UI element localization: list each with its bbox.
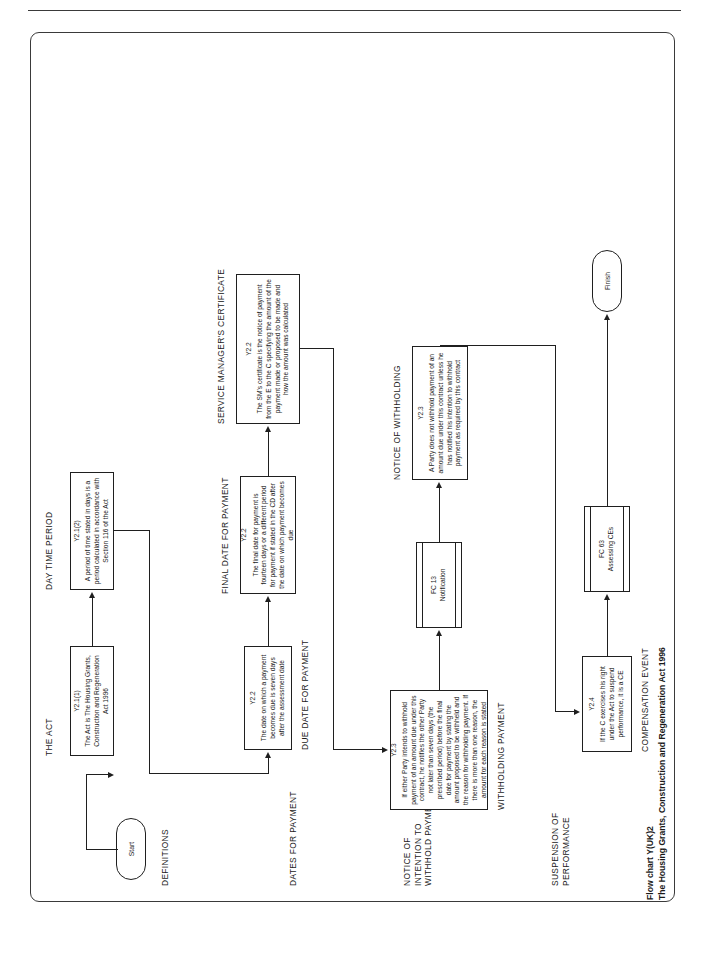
subprocess-fc13-ref: FC 13	[430, 576, 439, 594]
subprocess-fc13-notification[interactable]: FC 13 Notification	[416, 542, 462, 628]
connector-fc63-to-finish	[607, 318, 608, 506]
arrowhead-withholding-payment	[382, 747, 388, 753]
arrowhead-finish	[604, 314, 610, 320]
connector-withholding-to-fc13	[439, 634, 440, 690]
node-withholding-payment-ref: Y2.3	[390, 743, 398, 757]
subprocess-fc13-body: Notification	[439, 569, 448, 602]
connector-row2-drop	[149, 773, 269, 774]
arrowhead-fc63	[604, 594, 610, 600]
node-suspension-of-performance[interactable]: Y2.4 If the C exercises his right under …	[582, 656, 632, 752]
node-due-date-for-payment[interactable]: Y2.2 The date on which a payment becomes…	[244, 646, 292, 750]
connector-act-to-daytime	[92, 596, 93, 646]
node-final-date-ref: Y2.2	[240, 528, 248, 542]
caption-withholding-payment: WITHHOLDING PAYMENT	[496, 702, 506, 810]
arrowhead-suspension	[574, 709, 580, 715]
arrowhead-notice-of-withholding	[436, 482, 442, 488]
arrowhead-fc13	[436, 630, 442, 636]
node-sm-certificate-body: The SM's certificate is the notice of pa…	[256, 279, 291, 419]
node-act-body: The Act is The Housing Grants, Construct…	[84, 651, 110, 751]
caption-compensation-event: COMPENSATION EVENT	[640, 648, 650, 752]
connector-smcert-down	[300, 348, 334, 349]
connector-row3-feed	[333, 348, 334, 750]
connector-notice-down	[440, 345, 556, 346]
node-sm-certificate[interactable]: Y2.2 The SM's certificate is the notice …	[236, 274, 300, 424]
caption-definitions: DEFINITIONS	[160, 829, 170, 886]
arrowhead-into-act	[108, 772, 114, 778]
node-due-date-body: The date on which a payment becomes due …	[260, 651, 286, 745]
connector-due-to-final	[268, 600, 269, 646]
node-final-date-for-payment[interactable]: Y2.2 The final date for payment is fourt…	[240, 476, 296, 594]
connector-start-up	[86, 849, 118, 850]
node-notice-of-withholding[interactable]: Y2.3 A Party does not withhold payment o…	[412, 346, 468, 480]
connector-fc13-to-notice	[439, 486, 440, 542]
connector-row3-drop	[333, 749, 385, 750]
node-due-date-ref: Y2.2	[249, 691, 257, 705]
header-rule	[28, 10, 681, 11]
flowchart-canvas: Start DEFINITIONS Y2.1(1) The Act is The…	[30, 32, 675, 902]
node-act[interactable]: Y2.1(1) The Act is The Housing Grants, C…	[70, 646, 114, 756]
caption-suspension-of-performance: SUSPENSION OF PERFORMANCE	[550, 794, 571, 886]
node-suspension-body: If the C exercises his right under the A…	[599, 661, 625, 747]
connector-row2-feed	[149, 530, 150, 774]
node-day-time-period-ref: Y2.1(2)	[73, 520, 81, 542]
subprocess-fc63-assessing-ces[interactable]: FC 63 Assessing CEs	[584, 506, 630, 592]
caption-final-date-for-payment: FINAL DATE FOR PAYMENT	[220, 477, 230, 594]
node-day-time-period[interactable]: Y2.1(2) A period of time stated in days …	[70, 472, 114, 590]
node-suspension-ref: Y2.4	[588, 697, 596, 711]
node-withholding-payment[interactable]: Y2.3 If either Party intends to withhold…	[390, 690, 488, 810]
arrowhead-sm-certificate	[265, 426, 271, 432]
arrowhead-due-date	[265, 752, 271, 758]
subprocess-fc63-body: Assessing CEs	[607, 527, 616, 571]
node-notice-of-withholding-ref: Y2.3	[417, 406, 425, 420]
subprocess-fc63-ref: FC 63	[598, 540, 607, 558]
caption-sm-certificate: SERVICE MANAGER'S CERTIFICATE	[216, 269, 226, 424]
node-act-ref: Y2.1(1)	[73, 690, 81, 712]
terminator-finish[interactable]: Finish	[592, 250, 622, 312]
caption-the-act: THE ACT	[44, 718, 54, 756]
node-final-date-body: The final date for payment is fourteen d…	[252, 481, 296, 589]
page: Flow chart Y(UK)2 The Housing Grants, Co…	[0, 0, 709, 960]
connector-into-due-date	[268, 756, 269, 774]
connector-row4-feed	[555, 345, 556, 712]
connector-daytime-down	[114, 530, 150, 531]
arrowhead-daytime	[89, 592, 95, 598]
caption-due-date-for-payment: DUE DATE FOR PAYMENT	[300, 640, 310, 750]
node-sm-certificate-ref: Y2.2	[245, 342, 253, 356]
node-notice-of-withholding-body: A Party does not withhold payment of an …	[428, 351, 463, 475]
terminator-start[interactable]: Start	[116, 818, 146, 880]
node-day-time-period-body: A period of time stated in days is a per…	[84, 477, 110, 585]
connector-suspension-to-fc63	[607, 598, 608, 656]
node-withholding-payment-body: If either Party intends to withhold paym…	[401, 695, 489, 805]
arrowhead-final-date	[265, 596, 271, 602]
connector-final-to-smcert	[268, 430, 269, 476]
caption-day-time-period: DAY TIME PERIOD	[44, 512, 54, 590]
caption-notice-of-withholding: NOTICE OF WITHHOLDING	[392, 365, 402, 480]
connector-start-right	[86, 774, 87, 850]
caption-dates-for-payment: DATES FOR PAYMENT	[288, 791, 298, 886]
